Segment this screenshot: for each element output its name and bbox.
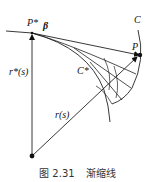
caption-number: 图 2.31	[39, 168, 74, 179]
label-p: P	[131, 41, 138, 52]
origin-point	[30, 154, 35, 159]
diagram-canvas: P* β C P C* r*(s) r(s)	[0, 0, 155, 182]
point-p-star	[31, 32, 34, 35]
label-r: r(s)	[55, 109, 70, 121]
tangent-line	[6, 31, 32, 33]
figure-caption: 图 2.31 渐缩线	[0, 165, 155, 180]
point-p	[138, 53, 142, 57]
label-beta: β	[42, 20, 49, 31]
label-c-star: C*	[77, 65, 89, 76]
caption-title: 渐缩线	[86, 168, 116, 179]
label-r-star: r*(s)	[9, 66, 29, 78]
label-p-star: P*	[26, 17, 38, 28]
evolute-figure: P* β C P C* r*(s) r(s) 图 2.31 渐缩线	[0, 0, 155, 182]
label-c: C	[134, 14, 141, 25]
segment-pstar-p	[32, 33, 139, 55]
